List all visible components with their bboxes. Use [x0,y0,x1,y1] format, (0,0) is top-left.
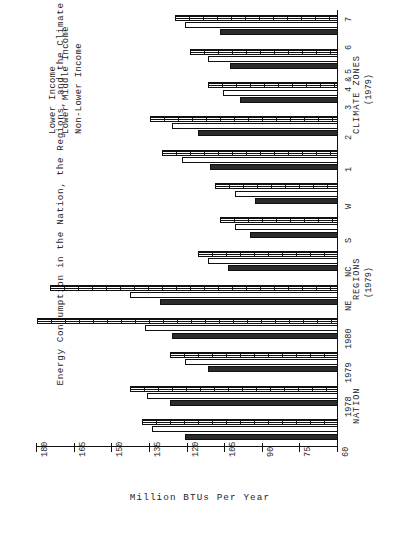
bar-nonlower [170,400,338,406]
bar-nonlower [250,232,338,238]
category-tick-1979: 1979 [344,362,354,383]
bar-group [36,150,338,184]
axis-tick-label: 60 [341,447,351,457]
axis-tick [299,443,300,452]
axis-tick [36,443,37,452]
bar-group [36,217,338,251]
bar-lowermid [182,157,338,163]
bar-lowermid [208,258,338,264]
bar-lowermid [152,426,338,432]
bar-group [36,82,338,116]
bar-lowermid [235,191,338,197]
bar-nonlower [255,198,338,204]
category-tick-2: 2 [344,135,354,140]
axis-tick-label: 90 [266,447,276,457]
axis-tick-label: 180 [40,442,50,457]
plot-area [36,10,338,448]
bar-lowermid [235,224,338,230]
bar-lowermid [185,22,338,28]
axis-tick-label: 105 [228,442,238,457]
axis-tick [187,443,188,452]
bar-nonlower [228,265,338,271]
bar-lower [162,150,338,156]
section-label-regions: REGIONS [352,258,362,300]
category-tick-1980: 1980 [344,328,354,349]
category-tick-7: 7 [344,17,354,22]
axis-tick-label: 120 [191,442,201,457]
section-year-regions: (1979) [364,267,374,298]
axis-tick [337,443,338,452]
category-tick-1: 1 [344,167,354,172]
bar-group [36,318,338,352]
bar-nonlower [240,97,338,103]
section-label-climate-zones: CLIMATE ZONES [352,55,362,134]
bar-lower [142,419,338,425]
category-tick-W: W [344,204,354,209]
bar-lower [215,183,338,189]
bar-lower [50,285,338,291]
bar-group [36,386,338,420]
bar-group [36,251,338,285]
bar-lower [208,82,338,88]
bar-lowermid [185,359,338,365]
bar-nonlower [208,366,338,372]
axis-tick [149,443,150,452]
axis-tick [74,443,75,452]
bar-lower [198,251,338,257]
chart-root: Energy Consumption in the Nation, the Re… [0,0,400,550]
bar-group [36,15,338,49]
bar-lower [150,116,338,122]
axis-tick [224,443,225,452]
bar-lower [37,318,338,324]
x-axis-label: Million BTUs Per Year [95,492,305,503]
axis-tick-label: 135 [153,442,163,457]
section-year-climate-zones: (1979) [364,74,374,105]
bar-group [36,116,338,150]
value-axis: 180165150135120105907560 [36,446,338,447]
bar-lowermid [223,90,338,96]
bar-group [36,285,338,319]
axis-tick-label: 75 [303,447,313,457]
bar-lowermid [147,393,338,399]
bar-lower [170,352,338,358]
axis-tick [262,443,263,452]
bar-nonlower [160,299,338,305]
bar-nonlower [210,164,338,170]
bar-lower [175,15,338,21]
axis-tick [111,443,112,452]
bar-group [36,352,338,386]
bar-nonlower [220,29,338,35]
category-tick-S: S [344,238,354,243]
bar-lower [220,217,338,223]
category-tick-6: 6 [344,45,354,50]
axis-tick-label: 150 [115,442,125,457]
bar-lower [190,49,338,55]
bar-lowermid [208,56,338,62]
bar-nonlower [230,63,338,69]
bar-group [36,183,338,217]
bar-lowermid [145,325,338,331]
bar-nonlower [172,333,338,339]
bar-nonlower [198,130,338,136]
bar-lowermid [130,292,338,298]
category-tick-NE: NE [344,301,354,311]
bar-lower [130,386,338,392]
section-label-nation: NATION [352,388,362,424]
bar-nonlower [185,434,338,440]
bar-lowermid [172,123,338,129]
category-axis [337,10,338,448]
bar-group [36,49,338,83]
axis-tick-label: 165 [78,442,88,457]
